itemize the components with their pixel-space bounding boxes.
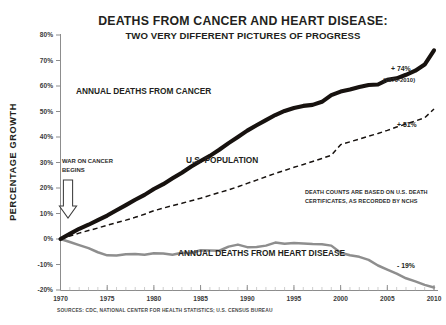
y-axis-title: PERCENTAGE GROWTH [8, 103, 18, 221]
x-tick-labels: 197019751980198519901995200020052010 [53, 295, 442, 302]
series-label-population: U.S. POPULATION [186, 155, 258, 165]
x-tick-label: 1980 [147, 295, 162, 302]
chart-subtitle: TWO VERY DIFFERENT PICTURES OF PROGRESS [125, 30, 361, 41]
y-tick-label: 10% [40, 210, 53, 217]
x-tick-label: 1985 [193, 295, 208, 302]
annotation-population-growth: + 51% [397, 121, 417, 128]
y-tick-label: 20% [40, 184, 53, 191]
chart-source: SOURCES: CDC, NATIONAL CENTER FOR HEALTH… [57, 308, 273, 313]
annotation-death-counts-line2: CERTIFICATES, AS RECORDED BY NCHS [305, 198, 418, 204]
x-tick-label: 1995 [287, 295, 302, 302]
x-tick-label: 2010 [427, 295, 442, 302]
annotation-cancer-growth: + 74% [391, 65, 411, 72]
y-tick-label: -20% [38, 286, 54, 293]
x-axis [61, 285, 439, 291]
x-tick-label: 2000 [333, 295, 348, 302]
annotation-death-counts-line1: DEATH COUNTS ARE BASED ON U.S. DEATH [305, 189, 428, 195]
down-arrow-icon [59, 180, 76, 218]
y-tick-label: 80% [40, 31, 53, 38]
y-tick-marks [56, 35, 61, 290]
annotation-war-on-cancer-line2: BEGINS [62, 167, 85, 173]
y-tick-label: 60% [40, 82, 53, 89]
annotation-cancer-growth-period: (1970-2010) [383, 77, 415, 83]
y-tick-label: 0% [43, 235, 53, 242]
x-tick-label: 1975 [100, 295, 115, 302]
chart-title: DEATHS FROM CANCER AND HEART DISEASE: [98, 14, 388, 28]
y-tick-label: 30% [40, 159, 53, 166]
y-tick-label: -10% [38, 261, 54, 268]
y-tick-label: 50% [40, 108, 53, 115]
chart-container: DEATHS FROM CANCER AND HEART DISEASE: TW… [0, 0, 446, 325]
annotation-heart-growth: - 19% [397, 262, 415, 269]
x-tick-label: 1990 [240, 295, 255, 302]
y-tick-label: 70% [40, 57, 53, 64]
y-axis [56, 34, 61, 290]
series-line-heart-disease [61, 239, 435, 287]
series-line-cancer [61, 50, 435, 239]
x-tick-label: 1970 [53, 295, 68, 302]
series-label-heart-disease: ANNUAL DEATHS FROM HEART DISEASE [178, 248, 345, 258]
annotation-war-on-cancer-line1: WAR ON CANCER [62, 158, 114, 164]
x-tick-label: 2005 [380, 295, 395, 302]
chart-svg: DEATHS FROM CANCER AND HEART DISEASE: TW… [0, 0, 446, 325]
y-tick-labels: 80%70%60%50%40%30%20%10%0%-10%-20% [38, 31, 54, 293]
series-label-cancer: ANNUAL DEATHS FROM CANCER [76, 86, 211, 96]
y-tick-label: 40% [40, 133, 53, 140]
